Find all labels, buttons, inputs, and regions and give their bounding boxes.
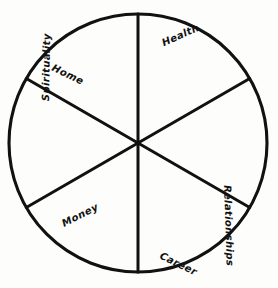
wheel-of-life-page: Health Relationships Career Money Spirit… (0, 0, 278, 288)
segment-label-spirituality: Spirituality (40, 33, 52, 101)
